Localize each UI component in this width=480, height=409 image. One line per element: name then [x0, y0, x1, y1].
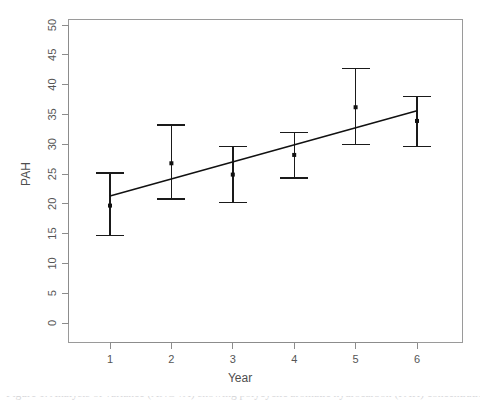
y-tick-label: 15 — [46, 227, 58, 239]
x-tick-label: 6 — [414, 353, 420, 365]
y-tick-label: 30 — [46, 138, 58, 150]
data-points-group — [108, 105, 419, 207]
data-point — [415, 119, 419, 123]
y-axis-tick-labels: 05101520253035404550 — [46, 19, 58, 326]
data-point — [108, 204, 112, 208]
error-bars-group — [96, 69, 431, 236]
y-tick-label: 10 — [46, 257, 58, 269]
y-tick-label: 5 — [46, 290, 58, 296]
y-tick-label: 45 — [46, 49, 58, 61]
y-tick-label: 50 — [46, 19, 58, 31]
y-tick-label: 25 — [46, 168, 58, 180]
y-tick-label: 0 — [46, 320, 58, 326]
figure-caption-strip: Figure 1. Analysis of variance (ANOVA) s… — [0, 396, 480, 409]
y-axis: 05101520253035404550 PAH — [19, 19, 69, 326]
y-tick-label: 40 — [46, 78, 58, 90]
figure-caption-text: Figure 1. Analysis of variance (ANOVA) s… — [6, 396, 476, 400]
regression-line — [110, 111, 417, 196]
y-axis-ticks — [62, 25, 69, 323]
x-tick-label: 3 — [230, 353, 236, 365]
x-axis: 123456 Year — [107, 343, 420, 386]
y-tick-label: 20 — [46, 198, 58, 210]
figure-container: 05101520253035404550 PAH 123456 Year Fig… — [0, 0, 480, 409]
y-axis-title: PAH — [19, 162, 33, 186]
x-tick-label: 5 — [353, 353, 359, 365]
data-point — [231, 173, 235, 177]
data-point — [169, 161, 173, 165]
x-tick-label: 2 — [168, 353, 174, 365]
data-point — [354, 105, 358, 109]
x-axis-tick-labels: 123456 — [107, 353, 420, 365]
data-point — [292, 153, 296, 157]
x-axis-ticks — [110, 343, 417, 350]
chart-plot: 05101520253035404550 PAH 123456 Year — [0, 0, 480, 409]
y-tick-label: 35 — [46, 108, 58, 120]
x-tick-label: 4 — [291, 353, 297, 365]
plot-panel-border — [69, 20, 463, 343]
x-tick-label: 1 — [107, 353, 113, 365]
regression-line-group — [110, 111, 417, 196]
x-axis-title: Year — [228, 371, 252, 385]
